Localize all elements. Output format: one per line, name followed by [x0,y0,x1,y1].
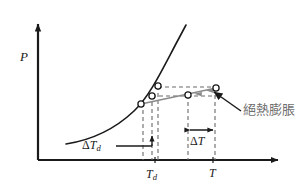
y-axis-label: P [20,50,28,63]
adiabatic-expansion-label: 絕熱膨脹 [243,103,295,116]
x-tick-label-td: Td [146,168,157,182]
axis-group [38,24,278,160]
x-tick-label-td-main: T [146,167,153,181]
state-markers [138,83,219,107]
x-tick-label-t: T [209,167,216,179]
adiabatic-callout-leader [214,92,241,111]
x-tick-label-td-sub: d [153,172,157,182]
delta-t-symbol: Δ [190,134,198,148]
figure-container: P Td T ΔTd ΔT 絕熱膨脹 [0,0,307,196]
delta-td-symbol: Δ [82,138,90,152]
state-marker-1 [138,101,144,107]
state-marker-3 [155,83,161,89]
state-marker-4 [185,92,191,98]
state-marker-5 [213,85,219,91]
delta-t-label: ΔT [190,135,204,147]
vapor-pressure-curve [66,25,186,144]
delta-td-label: ΔTd [82,139,101,153]
delta-td-sub: d [96,143,100,153]
state-marker-2 [149,93,155,99]
diagram-canvas [0,0,307,196]
delta-td-leader [116,136,152,146]
delta-t-main: T [198,134,205,148]
